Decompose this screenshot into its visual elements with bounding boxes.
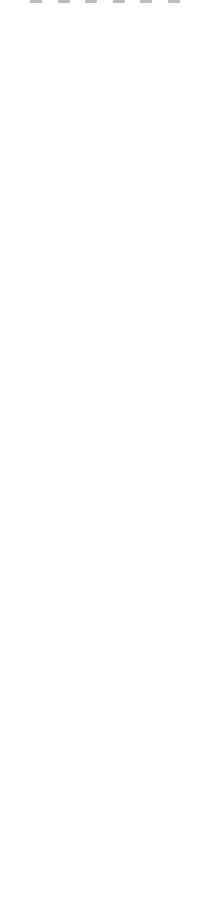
- cropped-title: [30, 0, 180, 5]
